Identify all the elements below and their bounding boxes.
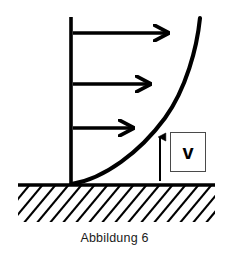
velocity-label-box: v: [170, 132, 206, 172]
ground-hatching: [0, 182, 229, 230]
figure-caption: Abbildung 6: [0, 231, 229, 245]
velocity-label-text: v: [182, 142, 193, 162]
boundary-layer-diagram: [0, 0, 229, 262]
figure-container: v Abbildung 6: [0, 0, 229, 262]
